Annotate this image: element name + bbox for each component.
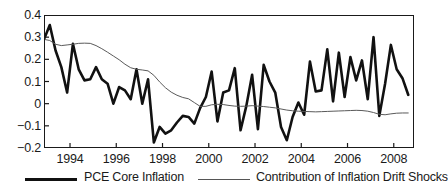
y-tick-label: −0.1: [17, 119, 41, 133]
y-tick-label: 0: [34, 97, 41, 111]
plot-frame: [44, 15, 414, 148]
x-tick-label: 2004: [288, 152, 315, 166]
y-tick-label: 0.3: [24, 30, 41, 44]
legend-label-drift: Contribution of Inflation Drift Shocks: [256, 170, 448, 184]
x-tick-label: 2000: [195, 152, 222, 166]
y-tick-label: −0.2: [17, 141, 41, 155]
y-tick-label: 0.4: [24, 8, 41, 22]
x-tick-label: 2008: [380, 152, 407, 166]
plot-area: [44, 15, 414, 148]
x-tick-label: 1998: [149, 152, 176, 166]
legend-swatch-drift: [198, 179, 250, 180]
x-tick-label: 1996: [103, 152, 130, 166]
x-tick-label: 2002: [242, 152, 269, 166]
x-tick-label: 2006: [334, 152, 361, 166]
y-tick-label: 0.2: [24, 52, 41, 66]
y-axis-labels: 0.40.30.20.10−0.1−0.2: [0, 0, 41, 194]
x-tick-label: 1994: [57, 152, 84, 166]
y-tick-label: 0.1: [24, 75, 41, 89]
legend-label-pce: PCE Core Inflation: [84, 170, 184, 184]
chart-legend: PCE Core Inflation Contribution of Infla…: [0, 170, 432, 192]
legend-swatch-pce: [25, 178, 77, 181]
